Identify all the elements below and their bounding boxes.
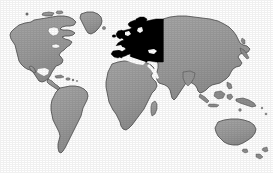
island-bismarck: [261, 107, 263, 109]
island-hispaniola: [66, 78, 70, 81]
island-puerto-rico: [72, 79, 74, 81]
island-lesser-antilles: [76, 80, 78, 82]
europe-ireland: [112, 34, 116, 37]
island-solomon: [265, 113, 268, 116]
europe-eastern-cut-edge: [163, 19, 164, 62]
canadian-arctic-islands: [42, 12, 54, 16]
world-map-canvas: [0, 0, 273, 173]
island-timor: [239, 109, 242, 112]
world-map-figure: World map with Europe highlighted: [0, 0, 273, 173]
arctic-islet: [26, 13, 29, 16]
island-java: [208, 104, 219, 107]
island-iceland: [102, 26, 105, 29]
